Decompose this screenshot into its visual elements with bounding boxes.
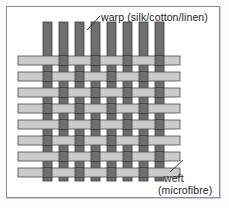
crossing-warp-over-r0-c5 xyxy=(123,56,132,66)
crossing-warp-over-r7-c4 xyxy=(107,168,116,178)
warp-label: warp (silk/cotton/linen) xyxy=(101,11,208,23)
crossing-warp-over-r5-c6 xyxy=(139,136,148,146)
crossing-warp-over-r3-c4 xyxy=(107,104,116,114)
crossing-warp-over-r1-c4 xyxy=(107,72,116,82)
crossing-warp-over-r7-c0 xyxy=(43,168,52,178)
crossing-warp-over-r3-c6 xyxy=(139,104,148,114)
weave-diagram xyxy=(0,0,229,208)
crossing-warp-over-r1-c6 xyxy=(139,72,148,82)
crossing-warp-over-r7-c6 xyxy=(139,168,148,178)
weft-strip-5 xyxy=(18,136,180,145)
crossing-warp-over-r3-c2 xyxy=(75,104,84,114)
crossing-warp-over-r6-c3 xyxy=(91,152,100,162)
weave-svg xyxy=(0,0,229,208)
weft-label: weft xyxy=(164,172,184,184)
crossing-warp-over-r1-c0 xyxy=(43,72,52,82)
crossing-warp-over-r2-c7 xyxy=(155,88,164,98)
crossing-warp-over-r4-c1 xyxy=(59,120,68,130)
crossing-warp-over-r6-c1 xyxy=(59,152,68,162)
crossing-warp-over-r4-c3 xyxy=(91,120,100,130)
crossing-warp-over-r0-c7 xyxy=(155,56,164,66)
weft-strip-1 xyxy=(18,72,180,81)
figure-screenshot: warp (silk/cotton/linen) weft (microfibr… xyxy=(0,0,229,208)
crossing-warp-over-r5-c2 xyxy=(75,136,84,146)
crossing-warp-over-r4-c7 xyxy=(155,120,164,130)
weave-strips xyxy=(18,22,180,181)
weft-strip-7 xyxy=(18,168,180,177)
crossing-warp-over-r0-c1 xyxy=(59,56,68,66)
crossing-warp-over-r3-c0 xyxy=(43,104,52,114)
weft-strip-3 xyxy=(18,104,180,113)
crossing-warp-over-r1-c2 xyxy=(75,72,84,82)
crossing-warp-over-r2-c1 xyxy=(59,88,68,98)
crossing-warp-over-r0-c3 xyxy=(91,56,100,66)
crossing-warp-over-r4-c5 xyxy=(123,120,132,130)
crossing-warp-over-r2-c5 xyxy=(123,88,132,98)
crossing-warp-over-r7-c2 xyxy=(75,168,84,178)
crossing-warp-over-r6-c5 xyxy=(123,152,132,162)
crossing-warp-over-r5-c4 xyxy=(107,136,116,146)
crossing-warp-over-r2-c3 xyxy=(91,88,100,98)
weft-material-label: (microfibre) xyxy=(158,184,212,196)
crossing-warp-over-r5-c0 xyxy=(43,136,52,146)
crossing-warp-over-r6-c7 xyxy=(155,152,164,162)
